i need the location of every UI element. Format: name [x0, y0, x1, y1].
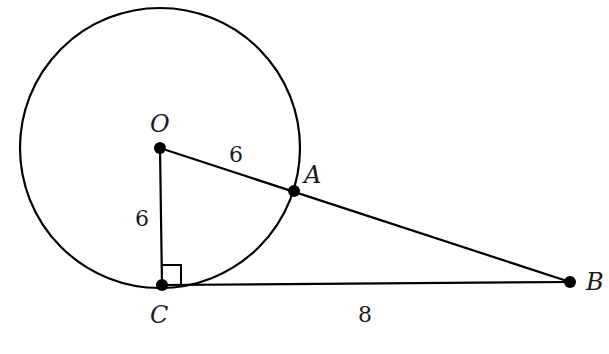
length-oa: 6 — [229, 142, 243, 167]
point-a — [288, 185, 300, 197]
label-o: O — [150, 110, 170, 138]
label-c: C — [150, 301, 168, 329]
point-o — [154, 142, 166, 154]
length-oc: 6 — [135, 206, 149, 231]
label-a: A — [302, 161, 321, 189]
segment-ob — [160, 148, 570, 282]
label-b: B — [585, 268, 604, 296]
point-c — [156, 279, 168, 291]
segment-oc — [160, 148, 162, 285]
geometry-diagram: O A B C 6 6 8 — [0, 0, 609, 354]
point-b — [564, 276, 576, 288]
length-cb: 8 — [358, 302, 372, 327]
segment-cb — [162, 282, 570, 285]
